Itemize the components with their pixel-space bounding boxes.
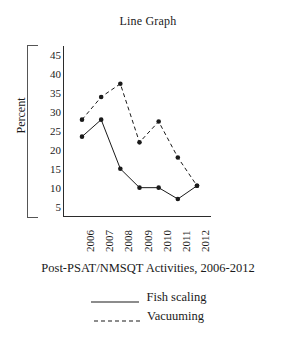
data-point bbox=[80, 134, 85, 139]
data-point bbox=[176, 197, 181, 202]
x-axis-caption: Post-PSAT/NMSQT Activities, 2006-2012 bbox=[0, 261, 296, 276]
data-point bbox=[80, 117, 85, 122]
legend-label: Vacuuming bbox=[144, 309, 204, 324]
data-point bbox=[195, 183, 200, 188]
y-tick-label: 25 bbox=[36, 126, 61, 137]
x-tick-label: 2009 bbox=[143, 230, 154, 252]
y-axis-tick-labels: 45403530252015105 bbox=[36, 45, 61, 216]
series-line-vacuuming bbox=[82, 84, 197, 186]
y-tick-label: 30 bbox=[36, 107, 61, 118]
x-axis-tick-labels: 2006200720082009201020112012 bbox=[63, 218, 210, 260]
x-tick-label: 2010 bbox=[162, 230, 173, 252]
data-point bbox=[176, 155, 181, 160]
y-tick-label: 20 bbox=[36, 144, 61, 155]
chart-legend: Fish scalingVacuuming bbox=[0, 288, 296, 326]
y-tick-label: 15 bbox=[36, 163, 61, 174]
legend-label: Fish scaling bbox=[141, 290, 206, 305]
y-tick-label: 10 bbox=[36, 182, 61, 193]
data-point bbox=[137, 140, 142, 145]
chart-title: Line Graph bbox=[0, 14, 296, 29]
data-point bbox=[99, 117, 104, 122]
x-tick-label: 2008 bbox=[123, 230, 134, 252]
x-tick-label: 2012 bbox=[200, 230, 211, 252]
legend-item[interactable]: Vacuuming bbox=[0, 307, 296, 326]
data-point bbox=[118, 166, 123, 171]
y-tick-label: 45 bbox=[36, 50, 61, 61]
legend-line-swatch bbox=[92, 312, 144, 322]
data-point bbox=[99, 95, 104, 100]
y-tick-label: 40 bbox=[36, 69, 61, 80]
chart-plot-svg bbox=[64, 46, 211, 216]
legend-item[interactable]: Fish scaling bbox=[0, 288, 296, 307]
x-tick-label: 2006 bbox=[85, 230, 96, 252]
line-chart-figure: Line Graph Percent 45403530252015105 200… bbox=[0, 0, 296, 339]
legend-line-swatch bbox=[89, 293, 141, 303]
data-point bbox=[137, 185, 142, 190]
data-point bbox=[156, 185, 161, 190]
data-point bbox=[118, 81, 123, 86]
plot-area bbox=[63, 46, 211, 217]
x-tick-label: 2007 bbox=[104, 230, 115, 252]
x-tick-label: 2011 bbox=[181, 230, 192, 252]
y-tick-label: 35 bbox=[36, 88, 61, 99]
data-point bbox=[156, 119, 161, 124]
y-tick-label: 5 bbox=[36, 201, 61, 212]
